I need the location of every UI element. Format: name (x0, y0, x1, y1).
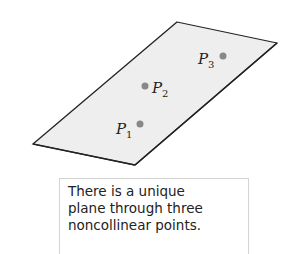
plane-diagram: P1 P2 P3 (0, 0, 291, 180)
caption-line: plane through three (68, 200, 248, 217)
point-p1 (137, 121, 144, 128)
caption-line: noncollinear points. (68, 217, 248, 234)
point-p3 (220, 53, 227, 60)
caption-line: There is a unique (68, 183, 248, 200)
point-p2 (142, 83, 149, 90)
caption-box: There is a unique plane through three no… (59, 178, 249, 254)
